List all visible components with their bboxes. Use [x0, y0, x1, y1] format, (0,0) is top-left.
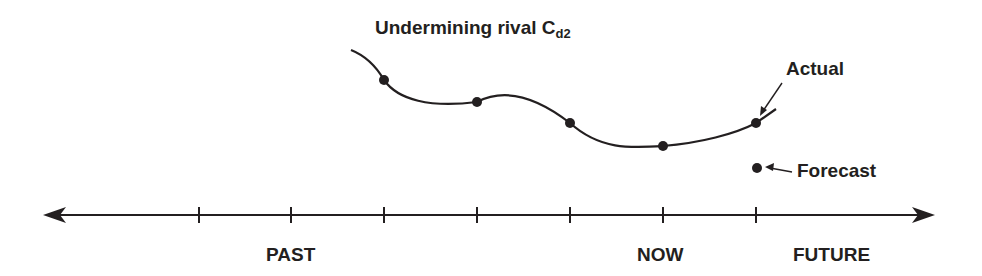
- timeline-diagram: [0, 0, 982, 276]
- forecast-point: [752, 163, 762, 173]
- timeline-label-future: FUTURE: [793, 244, 870, 266]
- timeline-label-past: PAST: [266, 244, 315, 266]
- forecast-label: Forecast: [797, 160, 876, 182]
- title-subscript: d2: [556, 26, 571, 41]
- forecast-pointer-arrow: [765, 163, 792, 172]
- actual-pointer-arrow: [760, 83, 782, 116]
- diagram-title: Undermining rival Cd2: [375, 17, 571, 41]
- actual-curve: [351, 50, 776, 147]
- timeline-label-now: NOW: [637, 244, 683, 266]
- actual-label: Actual: [786, 58, 844, 80]
- timeline-axis: [43, 207, 935, 223]
- title-symbol: C: [542, 17, 556, 38]
